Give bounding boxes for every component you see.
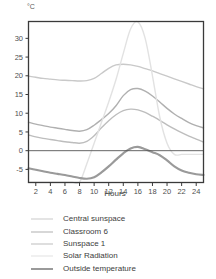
plot-svg: -5051015202530 24681012141618202224 Hour…: [0, 0, 216, 200]
series-line-outside-temperature: [29, 147, 204, 179]
legend-item[interactable]: Solar Radiation: [31, 250, 211, 262]
legend-color-swatch: [31, 250, 53, 262]
legend-item[interactable]: Outside temperature: [31, 263, 211, 275]
legend-color-swatch: [31, 238, 53, 250]
x-tick-label: 4: [48, 187, 52, 196]
legend-item-label: Sunspace 1: [63, 238, 105, 250]
y-tick-label: 5: [19, 128, 23, 137]
x-tick-label: 8: [77, 187, 81, 196]
legend-item-label: Classroom 6: [63, 226, 108, 238]
x-tick-label: 6: [63, 187, 67, 196]
x-tick-label: 16: [134, 187, 142, 196]
series-line-sunspace-1: [29, 109, 204, 143]
x-tick-label: 10: [90, 187, 98, 196]
series-line-central-sunspace: [29, 64, 204, 89]
plot-area-container: -5051015202530 24681012141618202224 Hour…: [0, 0, 216, 200]
legend-color-swatch: [31, 226, 53, 238]
temperature-chart: °C -5051015202530 24681012141618202224 H…: [0, 0, 216, 279]
y-tick-label: 20: [15, 71, 23, 80]
legend-color-swatch: [31, 263, 53, 275]
chart-legend: Central sunspaceClassroom 6Sunspace 1Sol…: [31, 213, 211, 275]
x-tick-label: 22: [177, 187, 185, 196]
legend-item-label: Solar Radiation: [63, 250, 118, 262]
series-line-classroom-6: [29, 88, 204, 131]
x-tick-label: 18: [148, 187, 156, 196]
series-layer: [29, 21, 204, 183]
y-tick-label: 15: [15, 90, 23, 99]
y-tick-label: 10: [15, 109, 23, 118]
legend-item[interactable]: Classroom 6: [31, 225, 211, 237]
y-axis-ticks: -5051015202530: [15, 34, 29, 174]
legend-item-label: Outside temperature: [63, 263, 136, 275]
x-tick-label: 24: [192, 187, 200, 196]
legend-item-label: Central sunspace: [63, 213, 125, 225]
y-tick-label: 0: [19, 146, 23, 155]
x-tick-label: 2: [34, 187, 38, 196]
y-tick-label: 25: [15, 53, 23, 62]
y-tick-label: -5: [16, 165, 23, 174]
y-tick-label: 30: [15, 34, 23, 43]
legend-color-swatch: [31, 213, 53, 225]
legend-item[interactable]: Central sunspace: [31, 213, 211, 225]
x-axis-title: Hours: [104, 189, 125, 198]
legend-item[interactable]: Sunspace 1: [31, 238, 211, 250]
x-tick-label: 20: [163, 187, 171, 196]
